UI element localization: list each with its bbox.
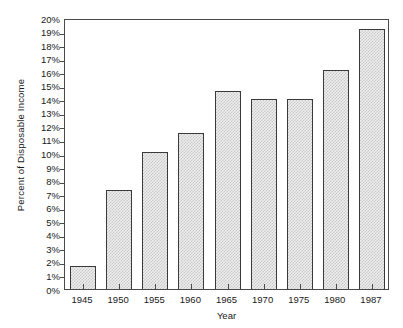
y-axis-tick-label: 5% xyxy=(22,218,60,228)
y-axis-tick-mark xyxy=(60,223,65,224)
x-axis-tick-mark xyxy=(83,284,84,289)
y-axis-tick-label: 10% xyxy=(22,150,60,160)
y-axis-tick-mark xyxy=(60,210,65,211)
y-axis-tick-label: 18% xyxy=(22,42,60,52)
y-axis-tick-label: 15% xyxy=(22,82,60,92)
y-axis-tick-mark xyxy=(60,34,65,35)
y-axis-tick-mark xyxy=(60,156,65,157)
y-axis-tick-label: 3% xyxy=(22,245,60,255)
y-axis-tick-mark xyxy=(60,250,65,251)
y-axis-tick-label: 16% xyxy=(22,69,60,79)
x-axis-tick-label: 1987 xyxy=(349,294,393,306)
y-axis-tick-label: 6% xyxy=(22,204,60,214)
x-axis-title: Year xyxy=(64,310,389,322)
y-axis-tick-label: 12% xyxy=(22,123,60,133)
y-axis-tick-label: 7% xyxy=(22,191,60,201)
x-axis-tick-mark xyxy=(228,284,229,289)
y-axis-tick-label: 2% xyxy=(22,258,60,268)
x-axis-tick-mark xyxy=(372,284,373,289)
y-axis-tick-mark xyxy=(60,183,65,184)
y-axis-tick-mark xyxy=(60,101,65,102)
y-axis-tick-mark xyxy=(60,277,65,278)
x-axis-tick-mark xyxy=(191,284,192,289)
y-axis-tick-mark xyxy=(60,115,65,116)
y-axis-tick-label: 0% xyxy=(22,286,60,296)
bar xyxy=(287,99,313,289)
y-axis-tick-label: 14% xyxy=(22,96,60,106)
y-axis-tick-label: 17% xyxy=(22,55,60,65)
y-axis-tick-mark xyxy=(60,196,65,197)
x-axis-tick-labels: 194519501955196019651970197519801987 xyxy=(64,294,389,308)
y-axis-tick-label: 13% xyxy=(22,109,60,119)
bar xyxy=(142,152,168,289)
x-axis-tick-mark xyxy=(336,284,337,289)
y-axis-tick-mark xyxy=(60,74,65,75)
y-axis-tick-mark xyxy=(60,88,65,89)
x-axis-tick-mark xyxy=(155,284,156,289)
plot-area xyxy=(64,19,389,290)
y-axis-tick-mark xyxy=(60,61,65,62)
bar-chart: Percent of Disposable Income 0%1%2%3%4%5… xyxy=(0,0,403,328)
bar xyxy=(178,133,204,289)
x-axis-tick-mark xyxy=(119,284,120,289)
y-axis-tick-label: 20% xyxy=(22,15,60,25)
x-axis-tick-mark xyxy=(264,284,265,289)
bar xyxy=(106,190,132,289)
y-axis-tick-mark xyxy=(60,142,65,143)
y-axis-tick-mark xyxy=(60,47,65,48)
y-axis-tick-labels: 0%1%2%3%4%5%6%7%8%9%10%11%12%13%14%15%16… xyxy=(22,12,60,297)
y-axis-tick-mark xyxy=(60,128,65,129)
bar xyxy=(323,70,349,290)
y-axis-tick-mark xyxy=(60,264,65,265)
y-axis-tick-label: 1% xyxy=(22,272,60,282)
y-axis-tick-label: 8% xyxy=(22,177,60,187)
bar xyxy=(359,29,385,289)
y-axis-tick-mark xyxy=(60,169,65,170)
y-axis-tick-mark xyxy=(60,237,65,238)
y-axis-tick-label: 9% xyxy=(22,164,60,174)
bar xyxy=(251,99,277,289)
y-axis-tick-label: 4% xyxy=(22,231,60,241)
y-axis-tick-label: 19% xyxy=(22,28,60,38)
y-axis-tick-label: 11% xyxy=(22,136,60,146)
x-axis-tick-mark xyxy=(300,284,301,289)
bar xyxy=(215,91,241,289)
